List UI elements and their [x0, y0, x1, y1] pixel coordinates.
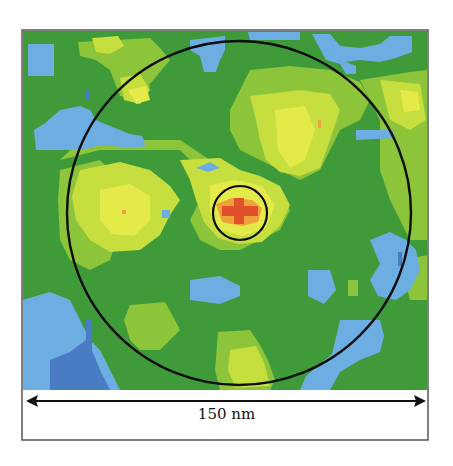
figure-canvas: [0, 0, 453, 466]
scale-bar-label: 150 nm: [0, 405, 453, 423]
intensity-map: [22, 30, 428, 390]
